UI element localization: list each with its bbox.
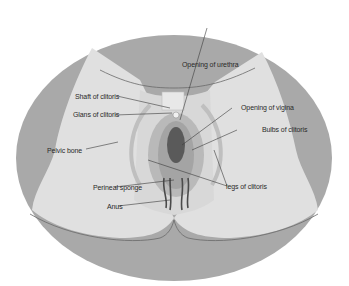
glans-shape [173,112,179,118]
label-anus: Anus [107,203,123,211]
label-bulbs-of-clitoris: Bulbs of clitoris [262,126,307,134]
upper-bar [162,92,184,110]
label-legs-of-clitoris: legs of clitoris [226,183,267,191]
label-pelvic-bone: Pelvic bone [47,147,82,155]
anatomy-diagram: Opening of urethra Shaft of clitoris Gla… [0,0,349,286]
label-glans-of-clitoris: Glans of clitoris [73,111,119,119]
label-shaft-of-clitoris: Shaft of clitoris [75,93,119,101]
label-opening-of-vagina: Opening of vigina [241,104,294,112]
diagram-illustration [0,0,349,286]
label-opening-of-urethra: Opening of urethra [182,61,239,69]
label-perineal-sponge: Perineal sponge [93,184,142,192]
